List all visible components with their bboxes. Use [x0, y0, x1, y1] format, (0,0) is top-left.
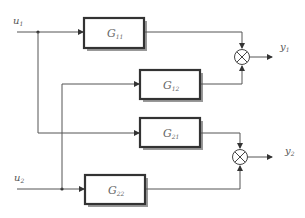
block-diagram: u1 u2 y1 y2 G11 G12 G21 G22 — [0, 0, 305, 218]
g11-to-sum1-wire — [145, 32, 242, 48]
output-label-y1: y1 — [279, 41, 289, 53]
u2-to-g12-wire — [62, 84, 139, 189]
summing-junction-1 — [235, 50, 250, 65]
input-label-u2: u2 — [14, 172, 24, 184]
g22-to-sum2-wire — [146, 166, 240, 189]
g21-to-sum2-wire — [201, 133, 240, 148]
output-label-y2: y2 — [284, 145, 295, 157]
summing-junction-2 — [233, 150, 248, 165]
input-label-u1: u1 — [13, 15, 23, 27]
g12-to-sum1-wire — [201, 66, 242, 84]
